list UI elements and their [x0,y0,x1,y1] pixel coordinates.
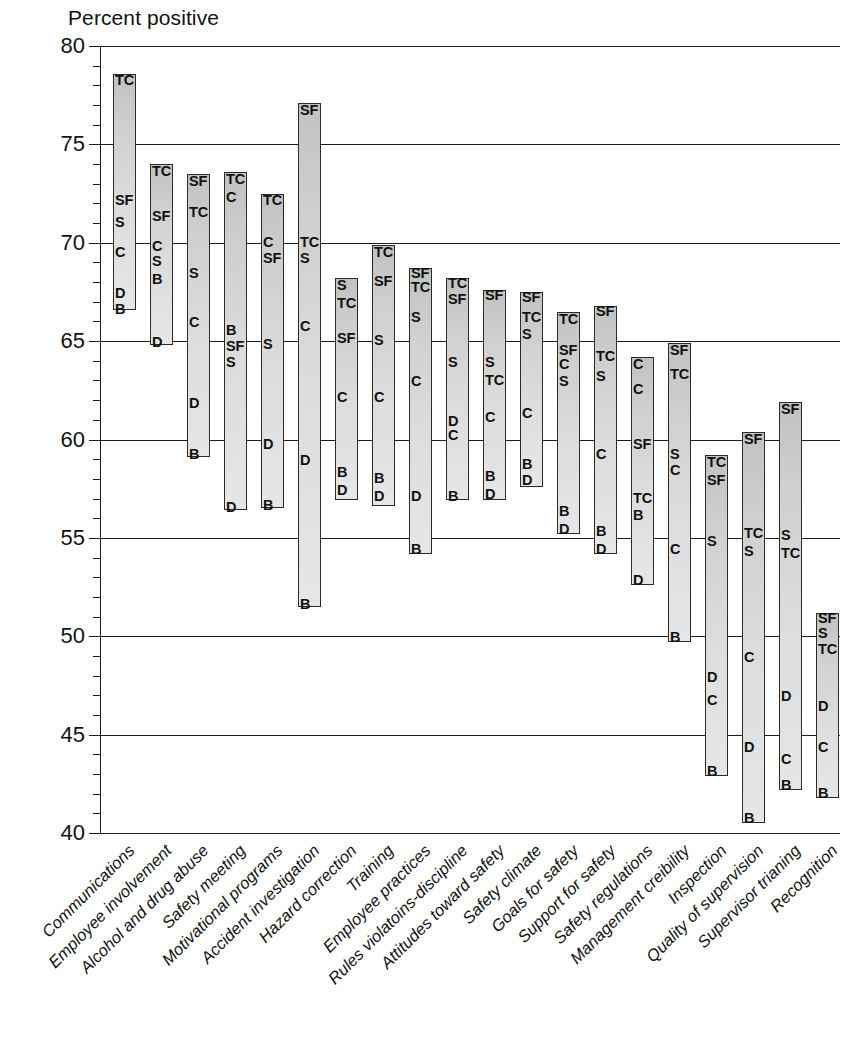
y-axis-tick-minor [93,794,100,795]
bar-point-label: B [744,811,754,826]
range-bar[interactable]: TCSFCSBD [150,164,173,345]
range-bar[interactable]: SFTCSCBD [520,292,543,487]
y-axis-tick-minor [93,813,100,814]
range-bar[interactable]: SFSTCCBD [483,290,506,501]
bar-point-label: S [226,355,235,370]
bar-point-label: S [670,447,679,462]
y-axis-tick-minor [93,302,100,303]
range-bar[interactable]: SFTCSCDB [742,432,765,824]
bar-point-label: C [633,357,643,372]
bar-point-label: C [374,390,384,405]
bar-point-label: SF [448,292,466,307]
bar-point-label: C [115,244,125,259]
range-bar[interactable]: TCSFCSBD [557,312,580,534]
y-axis-tick-major [89,341,100,342]
y-axis-tick-major [89,735,100,736]
y-axis-tick-major [89,243,100,244]
bar-point-label: TC [559,311,578,326]
plot-area: 404550556065707580 TCSFSCDBTCSFCSBDSFTCS… [100,46,840,833]
bar-point-label: SF [263,250,281,265]
y-axis-tick-label: 45 [61,722,85,748]
bar-point-label: D [781,689,791,704]
bar-point-label: C [559,357,569,372]
bar-point-label: TC [670,366,689,381]
gridline [100,341,840,342]
y-axis-tick-minor [93,518,100,519]
bar-point-label: TC [374,244,393,259]
y-axis-tick-minor [93,203,100,204]
range-bar[interactable]: SFSTCDCB [779,402,802,790]
y-axis-tick-minor [93,617,100,618]
bar-point-label: S [300,250,309,265]
y-axis-tick-minor [93,597,100,598]
bar-point-label: C [781,752,791,767]
bar-point-label: TC [189,205,208,220]
bar-point-label: S [485,355,494,370]
bar-point-label: SF [485,288,503,303]
bar-point-label: S [596,368,605,383]
range-bar[interactable]: STCSFCBD [335,278,358,500]
bar-point-label: B [670,630,680,645]
y-axis-tick-minor [93,774,100,775]
bar-point-label: TC [448,276,467,291]
range-bar[interactable]: SFSTCDCB [816,613,839,798]
bar-point-label: SF [744,431,762,446]
x-axis-labels-group: CommunicationsEmployee involvementAlcoho… [100,833,840,1040]
bar-point-label: TC [226,172,245,187]
range-bar[interactable]: SFTCSCDB [409,268,432,553]
bar-point-label: C [596,447,606,462]
bar-point-label: D [596,541,606,556]
y-axis-tick-major [89,636,100,637]
y-axis-tick-minor [93,754,100,755]
range-bar[interactable]: TCSFSDCB [705,455,728,776]
y-axis-tick-major [89,144,100,145]
y-axis-tick-minor [93,656,100,657]
bar-point-label: D [633,573,643,588]
range-bar[interactable]: TCSFSCDB [113,74,136,310]
range-bar[interactable]: TCSFSCBD [372,245,395,507]
range-bar[interactable]: CCSFTCBD [631,357,654,585]
bar-point-label: B [596,524,606,539]
bar-point-label: B [115,301,125,316]
y-axis-tick-minor [93,400,100,401]
bar-point-label: S [522,327,531,342]
range-bar[interactable]: TCCSFSDB [261,194,284,509]
bar-point-label: S [559,374,568,389]
bar-point-label: SF [707,473,725,488]
gridline [100,144,840,145]
y-axis-tick-minor [93,184,100,185]
range-bar[interactable]: SFTCSCBD [594,306,617,554]
bar-point-label: TC [485,372,504,387]
bar-point-label: S [448,355,457,370]
bar-point-label: B [189,447,199,462]
gridline [100,735,840,736]
bar-point-label: TC [115,73,134,88]
range-bar[interactable]: SFTCSCDB [187,174,210,457]
bar-point-label: TC [633,490,652,505]
bar-point-label: SF [337,331,355,346]
bar-point-label: D [485,486,495,501]
bar-point-label: D [707,669,717,684]
y-axis-tick-label: 80 [61,33,85,59]
range-bar[interactable]: TCCBSFSD [224,172,247,510]
bar-point-label: D [226,500,236,515]
bar-point-label: C [152,238,162,253]
bar-point-label: S [411,309,420,324]
bar-point-label: TC [263,193,282,208]
y-axis-tick-label: 60 [61,427,85,453]
range-bar[interactable]: SFTCSCCB [668,343,691,642]
bar-point-label: B [522,457,532,472]
y-axis-tick-minor [93,361,100,362]
bar-point-label: SF [152,209,170,224]
range-bar[interactable]: TCSFSDCB [446,278,469,500]
y-axis-tick-minor [93,499,100,500]
bar-point-label: SF [300,103,318,118]
bar-point-label: C [300,319,310,334]
range-bar[interactable]: SFTCSCDB [298,103,321,607]
bar-point-label: S [707,534,716,549]
y-axis-tick-minor [93,85,100,86]
bar-point-label: TC [300,235,319,250]
bar-point-label: C [818,740,828,755]
bar-point-label: SF [633,437,651,452]
y-axis-tick-minor [93,125,100,126]
